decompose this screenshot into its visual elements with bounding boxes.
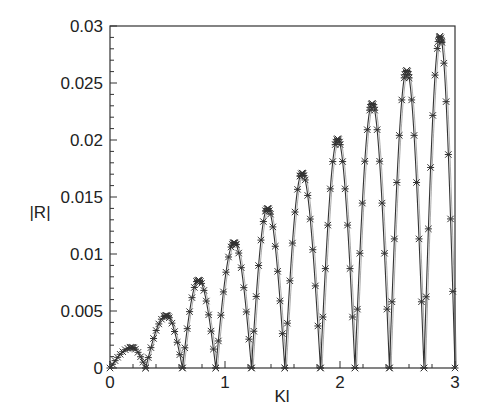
x-tick-label: 2 xyxy=(335,373,344,392)
axes: 00.0050.010.0150.020.0250.030123 xyxy=(60,17,459,392)
y-tick-label: 0.03 xyxy=(70,17,103,36)
marker-series xyxy=(106,33,458,371)
y-tick-label: 0.025 xyxy=(60,74,103,93)
y-tick-label: 0.015 xyxy=(60,188,103,207)
y-tick-label: 0.005 xyxy=(60,302,103,321)
y-tick-label: 0.01 xyxy=(70,245,103,264)
chart: 00.0050.010.0150.020.0250.030123 Kl |R| xyxy=(0,0,477,414)
x-axis-label: Kl xyxy=(274,387,289,406)
x-tick-label: 3 xyxy=(450,373,459,392)
x-tick-label: 0 xyxy=(105,373,114,392)
y-tick-label: 0.02 xyxy=(70,131,103,150)
plot-area xyxy=(106,33,458,371)
y-tick-label: 0 xyxy=(94,359,103,378)
x-tick-label: 1 xyxy=(220,373,229,392)
y-axis-label: |R| xyxy=(29,203,50,222)
